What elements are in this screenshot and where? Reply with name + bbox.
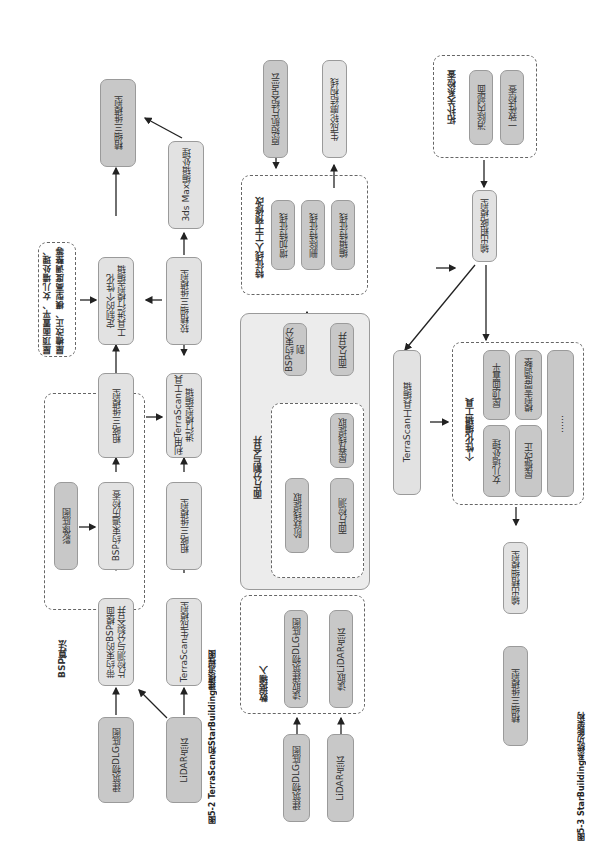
height-adjust-node: 模型高度调整 bbox=[515, 350, 542, 420]
gen-contour-label: 生成轮廓结构线 bbox=[329, 78, 340, 141]
fig3-lidar-label: LiDAR点云 bbox=[335, 756, 346, 801]
step-line-node: 阶跃线提取 bbox=[285, 478, 309, 553]
bsp-split-node: BSP约束分割 bbox=[283, 323, 307, 376]
bsp-algorithm-label: BSP算法 bbox=[57, 640, 68, 678]
fig3-dlg-base-label: 建筑物DLG底图 bbox=[291, 746, 302, 810]
fig3-lidar-node: LiDAR点云 bbox=[327, 734, 354, 822]
parapet-node: 女儿墙处理 bbox=[483, 425, 510, 497]
consistency-label: 一致性检查 bbox=[507, 85, 518, 130]
output-fine-node: 输出精细模型 bbox=[503, 542, 528, 614]
parapet-label: 女儿墙处理 bbox=[491, 439, 502, 484]
eave-fix-label: 屋檐改正 bbox=[523, 443, 534, 479]
del-feature-label: 删除特征线 bbox=[308, 213, 319, 258]
output-rough-node: 输出粗略模型 bbox=[472, 190, 497, 262]
del-feature-node: 删除特征线 bbox=[301, 200, 325, 270]
fig2-fine-model-node: 精细三维模型 bbox=[100, 79, 136, 167]
fig2-bsp-check-node: BSP约束遍历检查 bbox=[98, 482, 134, 570]
ridge-line-label: 屋脊线提取 bbox=[337, 418, 348, 463]
personal-tools-label: 个性化编辑工具 bbox=[464, 398, 475, 461]
ridge-line-node: 屋脊线提取 bbox=[330, 413, 354, 468]
figure-5-3-caption: 图5-3 StarBuilding系统功能架构 bbox=[576, 712, 587, 841]
fig2-finer-model-label: 较精细三维模型 bbox=[179, 270, 190, 333]
fig2-3dsmax-node: 3ds Max编辑处理 bbox=[168, 141, 204, 229]
fig2-dlg-base-label: 建筑物DLG底图 bbox=[111, 728, 122, 792]
fig3-dlg-base-node: 建筑物DLG底图 bbox=[283, 734, 310, 822]
roof-flat-node: 屋顶面置平 bbox=[483, 350, 510, 420]
read-lidar-label: 读取LiDAR点云 bbox=[336, 628, 347, 691]
fig2-lidar-label: LiDAR点云 bbox=[179, 738, 190, 783]
terrascan-tool-edit-label: TerraScan工具编辑 bbox=[402, 382, 413, 462]
fig2-lidar-node: LiDAR点云 bbox=[166, 717, 202, 803]
more-tools-label: …… bbox=[555, 415, 566, 433]
fig2-custom-edit-node: 定制的个性化 工具进行模型编辑 bbox=[98, 257, 134, 345]
figure-5-2-caption: 图5-2 TerraScan和StarBuilding建模流程图 bbox=[207, 650, 218, 824]
fig2-terrascan-gen-node: TerraScan生成模型 bbox=[166, 598, 202, 686]
feature-line-edit-label: 特征线人工干预修改 bbox=[254, 197, 265, 278]
fig2-bsp-detect-node: 带约束的BSP模面 片检测与分裂合并 bbox=[98, 598, 134, 686]
consistency-node: 一致性检查 bbox=[500, 70, 524, 145]
fig2-image-base-label: 影像底图 bbox=[61, 508, 72, 544]
facet-detect-node: 面片检测 bbox=[330, 478, 354, 553]
edit-feature-node: 编辑特征线 bbox=[331, 200, 355, 270]
remove-inner-node: 消除内部面 bbox=[469, 70, 493, 145]
output-fine-label: 输出精细模型 bbox=[510, 551, 521, 605]
bsp-split-label: BSP约束分割 bbox=[284, 324, 306, 375]
roof-flat-label: 屋顶面置平 bbox=[491, 363, 502, 408]
gen-contour-node: 生成轮廓结构线 bbox=[322, 60, 347, 158]
orig-cloud-node: 原始航片结合点云 bbox=[263, 60, 288, 158]
fig2-dlg-base-node: 建筑物DLG底图 bbox=[98, 717, 134, 803]
fig2-rough-model-b-node: 粗略三维模型 bbox=[166, 482, 202, 570]
add-feature-label: 增加特征线 bbox=[278, 213, 289, 258]
custom-tools-note-text: 屋顶面置平、女儿墙处理、 屋檐改正、模型高度调整等 bbox=[42, 246, 68, 354]
fig3-fine-model-node: 精细三维模型 bbox=[503, 646, 528, 746]
more-tools-node: …… bbox=[547, 350, 574, 497]
topology-check-label: 拓扑关系检查 bbox=[446, 70, 457, 124]
remove-inner-label: 消除内部面 bbox=[476, 85, 487, 130]
fig2-bsp-detect-label: 带约束的BSP模面 片检测与分裂合并 bbox=[105, 606, 127, 678]
fig2-fine-model-label: 精细三维模型 bbox=[113, 96, 124, 150]
output-rough-label: 输出粗略模型 bbox=[479, 199, 490, 253]
fig2-bsp-check-label: BSP约束遍历检查 bbox=[111, 490, 122, 561]
facet-split-merge-label: 面片分割与合并 bbox=[252, 436, 263, 499]
terrascan-tool-edit-node: TerraScan工具编辑 bbox=[393, 350, 421, 495]
read-dlg-node: 读取建筑物DLG底图 bbox=[284, 610, 308, 708]
height-adjust-label: 模型高度调整 bbox=[523, 358, 534, 412]
fig2-terrascan-edit-node: 利用TerraScan工具 进行模型编辑 bbox=[166, 373, 202, 458]
eave-fix-node: 屋檐改正 bbox=[515, 425, 542, 497]
fig2-rough-model-a-label: 粗略三维模型 bbox=[111, 389, 122, 443]
fig2-rough-model-a-node: 粗略三维模型 bbox=[98, 373, 134, 458]
fig2-3dsmax-label: 3ds Max编辑处理 bbox=[181, 148, 192, 222]
fig2-image-base-node: 影像底图 bbox=[54, 482, 78, 570]
edit-feature-label: 编辑特征线 bbox=[338, 213, 349, 258]
fig2-finer-model-node: 较精细三维模型 bbox=[166, 257, 202, 345]
step-line-label: 阶跃线提取 bbox=[292, 493, 303, 538]
orig-cloud-label: 原始航片结合点云 bbox=[270, 73, 281, 145]
facet-merge-label: 面片合并 bbox=[337, 332, 348, 368]
data-input-label: 数据输入 bbox=[258, 666, 269, 702]
facet-merge-node: 面片合并 bbox=[330, 323, 354, 376]
add-feature-node: 增加特征线 bbox=[271, 200, 295, 270]
read-dlg-label: 读取建筑物DLG底图 bbox=[291, 618, 302, 700]
fig2-terrascan-gen-label: TerraScan生成模型 bbox=[179, 602, 190, 682]
facet-detect-label: 面片检测 bbox=[337, 498, 348, 534]
read-lidar-node: 读取LiDAR点云 bbox=[329, 610, 353, 708]
fig2-rough-model-b-label: 粗略三维模型 bbox=[179, 499, 190, 553]
fig3-fine-model-label: 精细三维模型 bbox=[510, 669, 521, 723]
fig2-terrascan-edit-label: 利用TerraScan工具 进行模型编辑 bbox=[173, 375, 195, 455]
fig2-custom-edit-label: 定制的个性化 工具进行模型编辑 bbox=[105, 265, 127, 337]
